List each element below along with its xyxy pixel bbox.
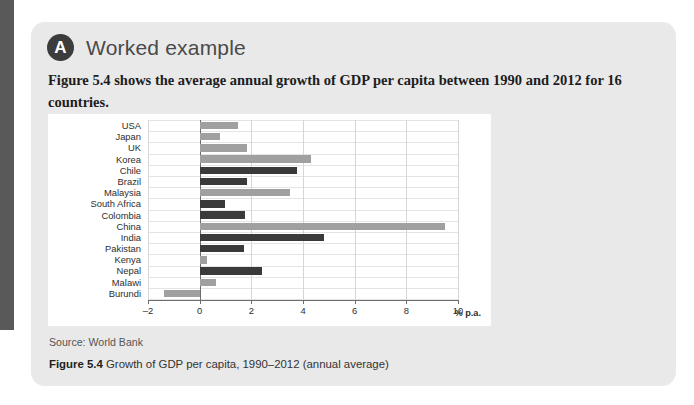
x-tick <box>303 300 304 304</box>
category-label: Brazil <box>48 176 145 187</box>
bar-usa <box>200 122 239 129</box>
source-note: Source: World Bank <box>49 336 143 348</box>
category-label: Kenya <box>48 254 145 265</box>
category-label: Korea <box>48 154 145 165</box>
category-label: Burundi <box>48 288 145 299</box>
bar-row <box>148 210 458 221</box>
category-label: USA <box>48 120 145 131</box>
bar-row <box>148 288 458 299</box>
x-tick-label: 6 <box>352 305 357 316</box>
category-label: China <box>48 221 145 232</box>
bar-chile <box>200 167 297 174</box>
bar-burundi <box>164 290 200 297</box>
bar-pakistan <box>200 245 244 252</box>
bar-row <box>148 198 458 209</box>
bar-row <box>148 232 458 243</box>
worked-example-card: A Worked example Figure 5.4 shows the av… <box>31 22 676 386</box>
card-header: A Worked example <box>47 34 246 61</box>
figure-caption: Figure 5.4 Growth of GDP per capita, 199… <box>49 358 389 370</box>
bar-colombia <box>200 211 245 218</box>
bar-malawi <box>200 279 217 286</box>
chart-panel: USAJapanUKKoreaChileBrazilMalaysiaSouth … <box>48 114 491 326</box>
page-edge-tab <box>0 0 14 330</box>
bar-china <box>200 223 445 230</box>
bar-nepal <box>200 267 262 274</box>
x-axis-unit-label: % p.a. <box>454 308 481 318</box>
bar-row <box>148 243 458 254</box>
category-label: Nepal <box>48 265 145 276</box>
x-tick-label: 4 <box>300 305 305 316</box>
category-label: Japan <box>48 131 145 142</box>
category-label: Chile <box>48 165 145 176</box>
intro-paragraph: Figure 5.4 shows the average annual grow… <box>48 69 648 114</box>
bar-row <box>148 120 458 131</box>
x-tick <box>251 300 252 304</box>
category-axis-labels: USAJapanUKKoreaChileBrazilMalaysiaSouth … <box>48 120 145 299</box>
x-tick-label: 0 <box>197 305 202 316</box>
bar-row <box>148 142 458 153</box>
grid-line-vertical <box>458 120 459 300</box>
bar-malaysia <box>200 189 290 196</box>
bar-row <box>148 176 458 187</box>
bar-korea <box>200 155 311 162</box>
bar-row <box>148 165 458 176</box>
category-label: India <box>48 232 145 243</box>
bar-uk <box>200 144 248 151</box>
category-label: Malaysia <box>48 187 145 198</box>
category-label: Pakistan <box>48 243 145 254</box>
bar-row <box>148 221 458 232</box>
section-badge-a: A <box>47 34 74 61</box>
category-label: Malawi <box>48 277 145 288</box>
bar-row <box>148 266 458 277</box>
bar-kenya <box>200 256 208 263</box>
bar-row <box>148 277 458 288</box>
x-tick <box>355 300 356 304</box>
x-tick <box>148 300 149 304</box>
x-tick-label: 8 <box>404 305 409 316</box>
bar-row <box>148 187 458 198</box>
plot-area <box>148 120 458 300</box>
x-tick <box>406 300 407 304</box>
x-tick-label: –2 <box>143 305 153 316</box>
bar-japan <box>200 133 221 140</box>
card-title: Worked example <box>86 36 246 60</box>
figure-caption-text: Growth of GDP per capita, 1990–2012 (ann… <box>106 358 389 370</box>
category-label: UK <box>48 142 145 153</box>
bar-india <box>200 234 324 241</box>
figure-caption-label: Figure 5.4 <box>49 358 103 370</box>
x-tick <box>458 300 459 304</box>
bar-brazil <box>200 178 248 185</box>
bar-row <box>148 131 458 142</box>
bar-row <box>148 254 458 265</box>
category-label: Colombia <box>48 210 145 221</box>
x-tick-label: 2 <box>249 305 254 316</box>
x-tick <box>200 300 201 304</box>
bar-row <box>148 154 458 165</box>
bar-south-africa <box>200 200 226 207</box>
category-label: South Africa <box>48 198 145 209</box>
